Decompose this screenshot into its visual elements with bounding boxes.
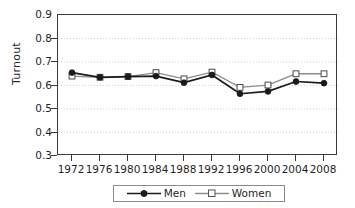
y-tick-label: 0.8	[22, 33, 52, 43]
data-point-men-1980[interactable]	[125, 74, 131, 80]
legend-label-men: Men	[164, 188, 186, 199]
y-tick-mark	[51, 132, 57, 133]
legend-swatch-men	[127, 188, 161, 199]
turnout-line-chart: Turnout 0.30.40.50.60.70.80.9 1972197619…	[0, 0, 355, 208]
data-point-men-1992[interactable]	[209, 72, 215, 78]
x-tick-mark	[239, 155, 240, 161]
x-tick-mark	[155, 155, 156, 161]
data-point-men-1984[interactable]	[153, 73, 159, 79]
y-tick-mark	[51, 155, 57, 156]
data-point-men-1972[interactable]	[69, 70, 75, 76]
data-point-women-2004[interactable]	[293, 71, 299, 77]
y-tick-mark	[51, 38, 57, 39]
data-point-men-1988[interactable]	[181, 80, 187, 86]
y-tick-label: 0.6	[22, 80, 52, 90]
data-point-women-2000[interactable]	[265, 82, 271, 88]
legend-swatch-women	[195, 188, 229, 199]
gridlines	[58, 39, 338, 133]
y-tick-label: 0.4	[22, 127, 52, 137]
x-tick-mark	[211, 155, 212, 161]
data-point-men-2008[interactable]	[321, 80, 327, 86]
y-tick-label: 0.9	[22, 9, 52, 19]
x-tick-mark	[99, 155, 100, 161]
x-tick-mark	[267, 155, 268, 161]
y-tick-label: 0.5	[22, 103, 52, 113]
plot-area	[57, 14, 337, 155]
y-tick-label: 0.3	[22, 150, 52, 160]
x-tick-mark	[323, 155, 324, 161]
y-tick-mark	[51, 85, 57, 86]
legend-entry-men[interactable]: Men	[127, 188, 186, 199]
legend-entry-women[interactable]: Women	[195, 188, 272, 199]
y-tick-mark	[51, 108, 57, 109]
y-tick-mark	[51, 61, 57, 62]
data-point-women-2008[interactable]	[321, 71, 327, 77]
x-tick-mark	[71, 155, 72, 161]
series-layer	[69, 69, 327, 96]
x-tick-mark	[127, 155, 128, 161]
data-point-men-1976[interactable]	[97, 74, 103, 80]
y-axis-tick-labels: 0.30.40.50.60.70.80.9	[22, 0, 52, 208]
data-point-men-2004[interactable]	[293, 79, 299, 85]
data-point-men-2000[interactable]	[265, 88, 271, 94]
chart-legend: Men Women	[113, 185, 285, 202]
data-point-men-1996[interactable]	[237, 91, 243, 97]
x-tick-mark	[295, 155, 296, 161]
x-tick-label: 2008	[301, 163, 345, 175]
y-axis-title: Turnout	[10, 22, 23, 106]
data-point-women-1996[interactable]	[237, 84, 243, 90]
y-tick-label: 0.7	[22, 56, 52, 66]
legend-label-women: Women	[232, 188, 272, 199]
x-tick-mark	[183, 155, 184, 161]
plot-svg	[58, 15, 338, 156]
